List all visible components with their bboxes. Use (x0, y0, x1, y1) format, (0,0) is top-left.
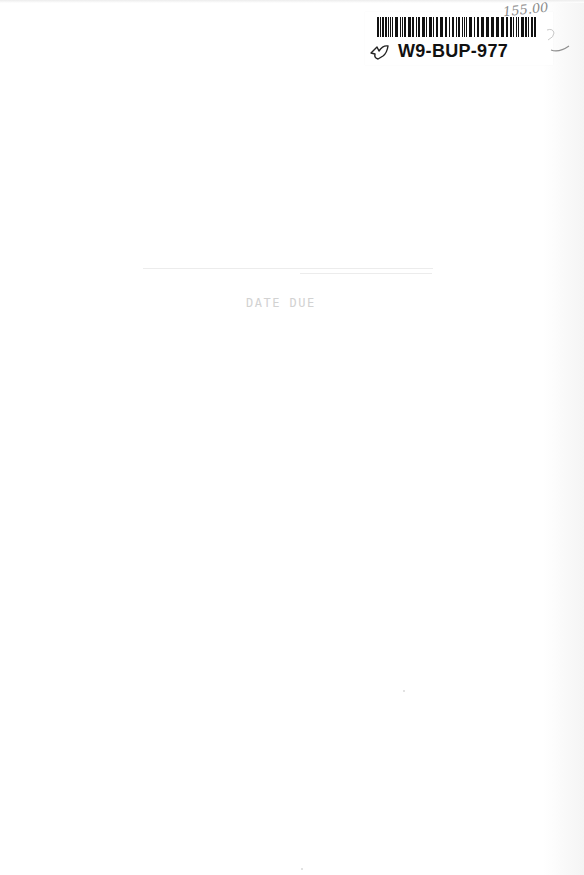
barcode-bars (377, 17, 537, 37)
paper-speck (403, 690, 405, 692)
bleed-through-rule-right (300, 273, 432, 274)
paper-speck (301, 868, 303, 870)
barcode-id-text: W9-BUP-977 (398, 41, 508, 62)
handwritten-mark (545, 28, 575, 54)
bleed-through-rule (143, 268, 433, 269)
leaf-bookmark-icon (369, 44, 391, 60)
page-top-edge (0, 0, 584, 3)
bleed-through-heading: DATE DUE (246, 296, 316, 310)
blank-page: W9-BUP-977 155.00 DATE DUE (0, 0, 584, 875)
